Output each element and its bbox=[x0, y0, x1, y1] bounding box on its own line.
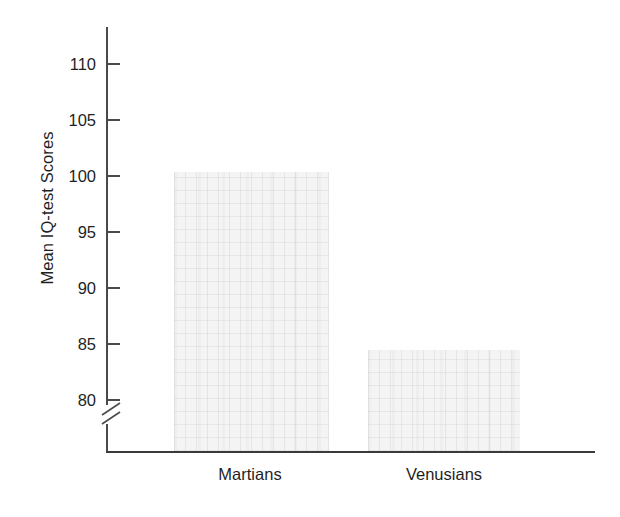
y-axis-tick-label: 105 bbox=[52, 112, 96, 129]
x-axis-line bbox=[106, 451, 595, 453]
y-axis-tick-label: 95 bbox=[52, 224, 96, 241]
y-axis-tick-label: 85 bbox=[52, 336, 96, 353]
x-axis-label-venusians: Venusians bbox=[364, 466, 524, 483]
bar-martians bbox=[174, 172, 329, 451]
plot-area bbox=[108, 27, 595, 451]
y-axis-tick-label: 90 bbox=[52, 280, 96, 297]
y-axis-tick-label: 110 bbox=[52, 56, 96, 73]
bar-chart-figure: Mean IQ-test Scores 11010510095908580 Ma… bbox=[0, 0, 620, 517]
y-axis-tick-label: 100 bbox=[52, 168, 96, 185]
y-axis-title: Mean IQ-test Scores bbox=[30, 58, 64, 358]
bar-venusians bbox=[368, 350, 520, 451]
x-axis-label-martians: Martians bbox=[170, 466, 330, 483]
y-axis-tick-label: 80 bbox=[52, 392, 96, 409]
